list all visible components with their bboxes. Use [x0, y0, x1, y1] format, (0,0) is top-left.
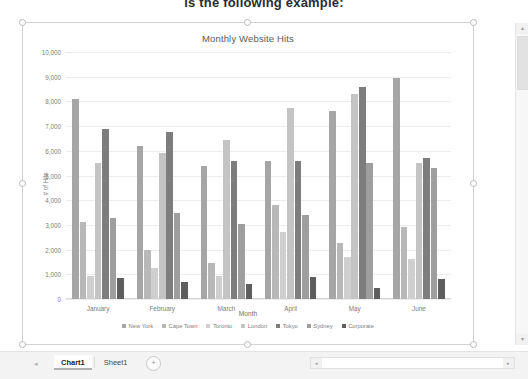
- y-axis-tick-label: 8,000: [45, 98, 61, 105]
- bar[interactable]: [151, 268, 158, 299]
- bar[interactable]: [144, 250, 151, 299]
- bar[interactable]: [174, 213, 181, 299]
- bar[interactable]: [329, 111, 336, 299]
- bar[interactable]: [95, 163, 102, 299]
- chart-legend[interactable]: New YorkCape TownTorontoLondonTokyoSydne…: [23, 323, 473, 329]
- bar[interactable]: [280, 232, 287, 299]
- resize-handle-bottom-left[interactable]: [19, 341, 26, 348]
- bar[interactable]: [137, 146, 144, 299]
- bar[interactable]: [201, 166, 208, 299]
- legend-swatch-icon: [162, 324, 166, 328]
- resize-handle-middle-right[interactable]: [470, 180, 477, 187]
- add-sheet-button[interactable]: +: [146, 356, 161, 371]
- legend-label: Corporate: [348, 323, 374, 329]
- bar[interactable]: [216, 276, 223, 299]
- y-axis-tick-label: 2,000: [45, 246, 61, 253]
- bar[interactable]: [374, 288, 381, 299]
- bar[interactable]: [166, 132, 173, 299]
- legend-swatch-icon: [342, 324, 346, 328]
- y-axis-tick-label: 0: [57, 296, 61, 303]
- bar[interactable]: [87, 276, 94, 299]
- legend-label: New York: [129, 323, 154, 329]
- bar[interactable]: [295, 161, 302, 299]
- y-axis-tick-label: 7,000: [45, 123, 61, 130]
- bar[interactable]: [408, 259, 415, 299]
- bar[interactable]: [337, 243, 344, 299]
- bar[interactable]: [423, 158, 430, 299]
- legend-swatch-icon: [307, 324, 311, 328]
- bar[interactable]: [72, 99, 79, 299]
- legend-item[interactable]: Cape Town: [162, 323, 197, 329]
- y-axis-tick-label: 6,000: [45, 147, 61, 154]
- chart-object[interactable]: Monthly Website Hits # of Hits 10,0009,0…: [22, 22, 474, 345]
- bar[interactable]: [438, 279, 445, 299]
- bar[interactable]: [366, 163, 373, 299]
- bar[interactable]: [223, 140, 230, 299]
- legend-item[interactable]: Tokyo: [276, 323, 298, 329]
- legend-item[interactable]: Corporate: [342, 323, 374, 329]
- resize-handle-bottom-right[interactable]: [470, 341, 477, 348]
- bar[interactable]: [208, 263, 215, 299]
- sheet-tab-chart1[interactable]: Chart1: [54, 355, 92, 370]
- legend-label: Sydney: [313, 323, 332, 329]
- sheet-tab-bar: ◂ Chart1Sheet1 + ◂ ▸: [0, 351, 528, 379]
- resize-handle-bottom-center[interactable]: [244, 341, 251, 348]
- legend-label: Toronto: [213, 323, 232, 329]
- bar[interactable]: [287, 108, 294, 299]
- legend-item[interactable]: Sydney: [307, 323, 333, 329]
- legend-swatch-icon: [276, 324, 280, 328]
- bar[interactable]: [351, 94, 358, 299]
- bar[interactable]: [246, 284, 253, 299]
- x-axis-title[interactable]: Month: [23, 310, 473, 317]
- horizontal-scrollbar[interactable]: ◂ ▸: [310, 357, 515, 369]
- sheet-tabs[interactable]: Chart1Sheet1: [54, 355, 135, 370]
- y-axis-tick-label: 3,000: [45, 221, 61, 228]
- vertical-scrollbar-thumb[interactable]: [517, 36, 528, 90]
- bar[interactable]: [231, 161, 238, 299]
- bar[interactable]: [238, 224, 245, 299]
- bar[interactable]: [302, 215, 309, 299]
- bar[interactable]: [416, 163, 423, 299]
- bar[interactable]: [110, 218, 117, 300]
- resize-handle-top-right[interactable]: [470, 19, 477, 26]
- bar[interactable]: [181, 282, 188, 299]
- resize-handle-top-center[interactable]: [244, 19, 251, 26]
- legend-item[interactable]: New York: [122, 323, 153, 329]
- y-axis-tick-label: 10,000: [42, 49, 61, 56]
- scroll-down-arrow-icon[interactable]: ▾: [516, 334, 528, 345]
- sheet-tab-sheet1[interactable]: Sheet1: [97, 355, 135, 370]
- y-axis-tick-label: 5,000: [45, 172, 61, 179]
- scroll-right-arrow-icon[interactable]: ▸: [503, 358, 514, 368]
- resize-handle-top-left[interactable]: [19, 19, 26, 26]
- legend-swatch-icon: [122, 324, 126, 328]
- bar[interactable]: [431, 168, 438, 299]
- legend-label: London: [248, 323, 267, 329]
- bar[interactable]: [359, 87, 366, 299]
- vertical-scrollbar[interactable]: ▴ ▾: [515, 23, 528, 345]
- bar[interactable]: [393, 78, 400, 299]
- scroll-up-arrow-icon[interactable]: ▴: [516, 23, 528, 34]
- sheet-nav-arrows[interactable]: ◂: [34, 358, 38, 370]
- bar[interactable]: [80, 222, 87, 299]
- scroll-left-arrow-icon[interactable]: ◂: [311, 358, 322, 368]
- legend-item[interactable]: Toronto: [206, 323, 232, 329]
- bar[interactable]: [102, 129, 109, 299]
- bar-group: February: [130, 52, 194, 299]
- bar[interactable]: [159, 153, 166, 299]
- y-axis-tick-label: 1,000: [45, 271, 61, 278]
- chart-title[interactable]: Monthly Website Hits: [23, 33, 473, 44]
- bar[interactable]: [310, 277, 317, 299]
- resize-handle-middle-left[interactable]: [19, 180, 26, 187]
- bar-group: May: [323, 52, 387, 299]
- legend-swatch-icon: [241, 324, 245, 328]
- plot-area[interactable]: 10,0009,0008,0007,0006,0005,0004,0003,00…: [66, 52, 451, 299]
- legend-label: Cape Town: [169, 323, 198, 329]
- bar[interactable]: [344, 257, 351, 299]
- sheet-nav-prev-icon[interactable]: ◂: [34, 358, 38, 370]
- bar[interactable]: [401, 227, 408, 299]
- bar[interactable]: [265, 161, 272, 299]
- legend-item[interactable]: London: [241, 323, 267, 329]
- y-axis-tick-label: 4,000: [45, 197, 61, 204]
- bar[interactable]: [272, 205, 279, 299]
- bar[interactable]: [117, 278, 124, 299]
